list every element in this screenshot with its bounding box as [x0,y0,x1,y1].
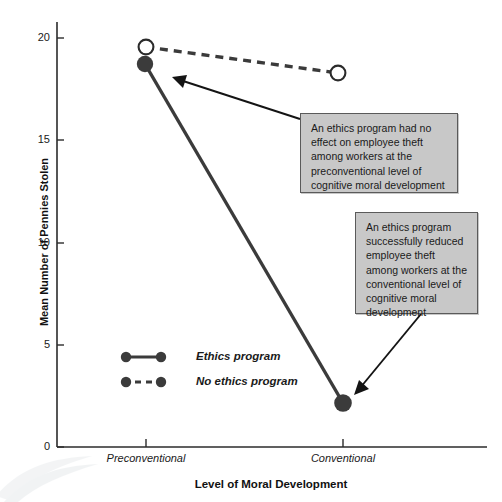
y-axis-title: Mean Number of Pennies Stolen [38,132,50,352]
annotation-line: An ethics program [366,220,468,234]
legend-item-ethics-program: Ethics program [118,348,348,368]
legend-label-ethics-program: Ethics program [196,350,280,362]
annotation-line: cognitive moral [366,291,468,305]
annotation-line: effect on employee theft [311,135,448,149]
x-tick-label-conventional: Conventional [273,452,413,464]
annotation-line: successfully reduced [366,234,468,248]
data-point-no-ethics-conventional [331,66,346,81]
annotation-line: cognitive moral development [311,178,448,192]
x-axis-title: Level of Moral Development [56,478,486,490]
annotation-arrow-reduced [354,314,421,395]
annotation-arrow-no-effect [172,75,300,119]
annotation-line: employee theft [366,248,468,262]
annotation-line: development [366,305,468,319]
annotation-line: among workers at the [366,263,468,277]
series-line-no-ethics-program [146,47,338,73]
legend-item-no-ethics-program: No ethics program [118,373,348,393]
annotation-line: preconventional level of [311,164,448,178]
series-no-ethics-program [139,40,346,81]
chart-legend: Ethics program No ethics program [118,348,348,400]
data-point-ethics-preconventional [137,56,153,72]
watermark-mark [0,452,114,502]
annotation-callout-no-effect: An ethics program had no effect on emplo… [300,113,458,193]
annotation-line: conventional level of [366,277,468,291]
x-axis-ticks [146,439,343,447]
y-tick-label-20: 20 [16,32,50,43]
annotation-line: among workers at the [311,149,448,163]
annotation-line: An ethics program had no [311,121,448,135]
y-tick-label-0: 0 [16,441,50,452]
data-point-no-ethics-preconventional [139,40,154,55]
annotation-callout-reduced: An ethics program successfully reduced e… [355,212,478,314]
legend-label-no-ethics-program: No ethics program [196,375,298,387]
y-axis-ticks [57,38,64,447]
